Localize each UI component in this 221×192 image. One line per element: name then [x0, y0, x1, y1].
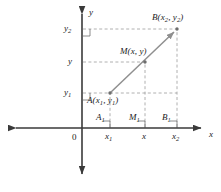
foot-sub-b1: 1 [168, 116, 171, 123]
foot-base-b1: B [162, 112, 168, 122]
point-label-a: A(x1, y1) [87, 96, 118, 105]
foot-label-a1: A1 [96, 113, 105, 122]
foot-sub-a1: 1 [102, 116, 105, 123]
point-label-a-close: ) [115, 95, 118, 105]
segment-ab-line [110, 32, 174, 93]
x-tick-sub-x1: 1 [109, 135, 112, 142]
right-angle-mark-y2 [83, 29, 90, 36]
point-b-marker [175, 27, 178, 30]
point-label-a-sub1: 1 [100, 99, 103, 106]
point-label-a-sub2: 1 [112, 99, 115, 106]
foot-sub-m1: 1 [137, 116, 140, 123]
y-tick-sub-y2: 2 [68, 27, 71, 34]
x-tick-base-x: x [142, 131, 146, 141]
y-tick-label-y1: y1 [64, 88, 71, 97]
point-label-b-mid: , y [168, 12, 177, 22]
y-tick-base-y: y [68, 56, 72, 66]
foot-base-m1: M [129, 112, 137, 122]
y-tick-label-y: y [68, 57, 72, 66]
origin-label: 0 [72, 133, 77, 142]
point-label-a-base: A(x [87, 95, 100, 105]
point-label-b-sub2: 2 [177, 16, 180, 23]
midpoint-diagram: y x 0 y2 y y1 x1 x x2 A1 M1 B1 B(x2, y2)… [0, 0, 221, 192]
y-tick-sub-y1: 1 [68, 91, 71, 98]
point-label-b-base: B(x [152, 12, 165, 22]
point-label-a-mid: , y [103, 95, 112, 105]
point-label-b: B(x2, y2) [152, 13, 183, 22]
right-angle-mark-b1 [170, 121, 177, 128]
point-label-b-sub1: 2 [165, 16, 168, 23]
x-tick-label-x1: x1 [105, 132, 112, 141]
x-tick-sub-x2: 2 [176, 135, 179, 142]
x-tick-label-x: x [142, 132, 146, 141]
y-axis-label: y [89, 8, 93, 17]
foot-label-b1: B1 [162, 113, 171, 122]
axes [16, 14, 201, 174]
point-label-m: M(x, y) [120, 47, 147, 56]
point-m-marker [143, 60, 146, 63]
segment-ab [110, 32, 174, 93]
x-axis-label: x [209, 130, 213, 139]
point-label-b-close: ) [180, 12, 183, 22]
x-tick-label-x2: x2 [172, 132, 179, 141]
foot-label-m1: M1 [129, 113, 140, 122]
y-tick-label-y2: y2 [64, 24, 71, 33]
foot-base-a1: A [96, 112, 102, 122]
